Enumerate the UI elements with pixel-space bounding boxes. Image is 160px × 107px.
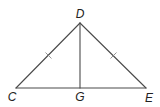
label-g: G <box>75 90 84 104</box>
triangle-diagram: D C G E <box>0 0 160 107</box>
label-e: E <box>145 91 154 105</box>
label-d: D <box>76 7 85 21</box>
label-c: C <box>8 90 17 104</box>
